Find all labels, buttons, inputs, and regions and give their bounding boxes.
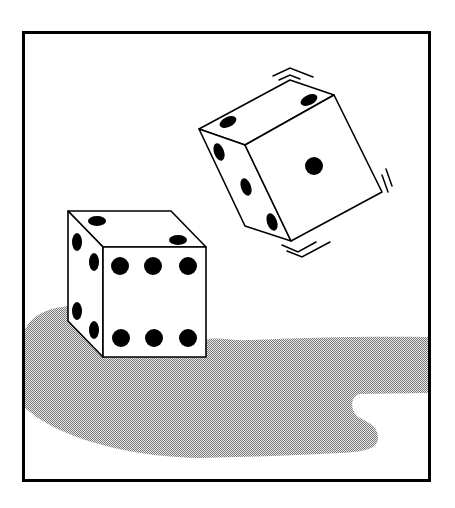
pip (89, 321, 99, 339)
pip (88, 216, 106, 226)
pip (111, 257, 129, 275)
pip (112, 329, 130, 347)
pip (72, 302, 82, 320)
pip (72, 233, 82, 251)
pip (179, 329, 197, 347)
pip (169, 235, 187, 245)
pip (145, 329, 163, 347)
dice-illustration (0, 0, 455, 508)
pip (179, 257, 197, 275)
pip (305, 157, 323, 175)
pip (89, 253, 99, 271)
pip (144, 257, 162, 275)
